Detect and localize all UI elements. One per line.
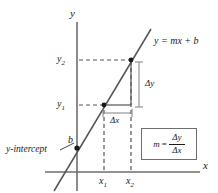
delta-y-label: Δy [145, 79, 154, 88]
point-y-intercept [74, 145, 79, 150]
slope-formula-equals: = [162, 139, 167, 149]
slope-diagram-figure: y x y = mx + b y2 y1 x1 x2 Δy Δx b y-int… [0, 0, 218, 193]
y1-tick-label: y1 [57, 99, 65, 112]
slope-formula-m: m [153, 139, 160, 149]
y2-tick-label: y2 [57, 54, 65, 67]
b-intercept-label: b [68, 135, 73, 145]
x1-tick-label: x1 [99, 176, 107, 189]
y2-tick-sub: 2 [61, 59, 65, 67]
x2-tick-label: x2 [126, 176, 134, 189]
y1-tick-sub: 1 [61, 104, 65, 112]
slope-formula: m = Δy Δx [153, 133, 185, 155]
y-axis-label: y [70, 8, 75, 19]
delta-x-label: Δx [110, 116, 119, 125]
slope-formula-box: m = Δy Δx [141, 128, 197, 160]
x-axis-label: x [203, 160, 208, 171]
line-equation-label: y = mx + b [154, 36, 199, 46]
diagram-canvas [0, 0, 218, 193]
slope-formula-fraction: Δy Δx [169, 133, 185, 155]
x2-tick-sub: 2 [130, 181, 134, 189]
slope-formula-denominator: Δx [171, 146, 182, 155]
slope-formula-numerator: Δy [171, 133, 182, 142]
point-p2 [129, 58, 134, 63]
x1-tick-sub: 1 [103, 181, 107, 189]
point-p1 [102, 103, 107, 108]
y-intercept-callout-label: y-intercept [6, 145, 47, 155]
